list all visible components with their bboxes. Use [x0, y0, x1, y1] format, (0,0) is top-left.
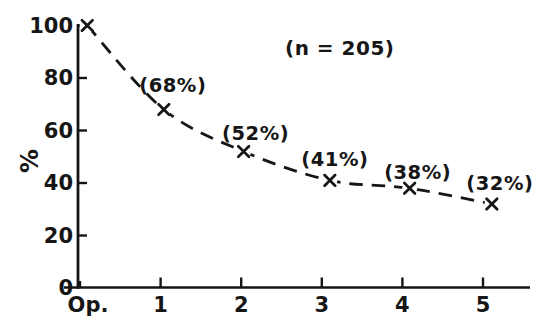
line-chart-figure: 020406080100Op.12345(68%)(52%)(41%)(38%)…	[0, 0, 544, 329]
x-tick-label: 1	[153, 293, 168, 317]
point-label: (32%)	[466, 172, 533, 195]
y-tick-label: 40	[44, 171, 73, 195]
x-tick-label: 3	[314, 293, 329, 317]
chart-canvas: 020406080100Op.12345(68%)(52%)(41%)(38%)…	[0, 0, 544, 329]
point-label: (38%)	[384, 161, 451, 184]
x-tick-label: 5	[476, 293, 491, 317]
y-tick-label: 100	[29, 14, 73, 38]
point-label: (68%)	[139, 74, 206, 97]
point-label: (41%)	[301, 148, 368, 171]
point-label: (52%)	[222, 122, 289, 145]
y-tick-label: 60	[44, 119, 73, 143]
y-tick-label: 80	[44, 66, 73, 90]
x-tick-label: 4	[395, 293, 410, 317]
x-tick-label: Op.	[68, 293, 109, 317]
y-axis-title: %	[16, 146, 46, 176]
y-tick-label: 20	[44, 224, 73, 248]
sample-size-annotation: (n = 205)	[285, 36, 375, 60]
x-tick-label: 2	[234, 293, 249, 317]
